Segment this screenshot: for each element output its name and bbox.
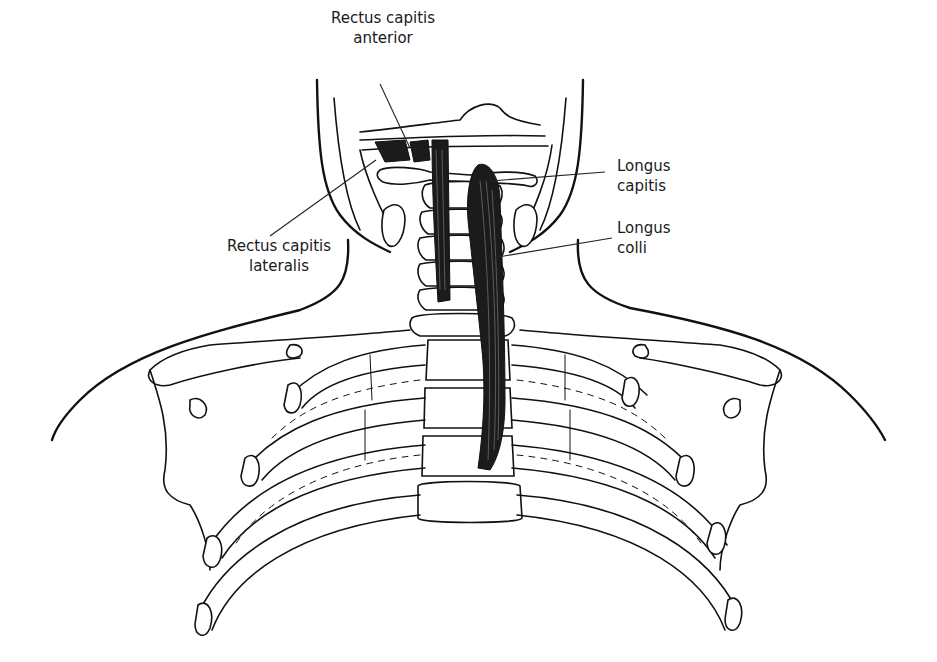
label-line: Rectus capitis (308, 8, 458, 28)
leader-longus-colli (492, 238, 612, 258)
anatomy-diagram: Rectus capitis anterior Longus capitis L… (0, 0, 937, 662)
label-rectus-capitis-anterior: Rectus capitis anterior (308, 8, 458, 48)
label-longus-colli: Longus colli (617, 218, 717, 258)
thoracic-vertebrae (418, 340, 522, 523)
label-line: Rectus capitis (204, 236, 354, 256)
label-line: lateralis (204, 256, 354, 276)
label-longus-capitis: Longus capitis (617, 156, 717, 196)
label-line: anterior (308, 28, 458, 48)
ribs-left (195, 345, 425, 635)
neck-skeleton-drawing (0, 0, 937, 662)
ribs-right (512, 345, 742, 630)
label-line: colli (617, 238, 717, 258)
label-line: capitis (617, 176, 717, 196)
label-line: Longus (617, 218, 717, 238)
rectus-capitis-anterior-muscle (410, 140, 430, 162)
rectus-capitis-lateralis-muscle (375, 140, 410, 162)
label-line: Longus (617, 156, 717, 176)
label-rectus-capitis-lateralis: Rectus capitis lateralis (204, 236, 354, 276)
